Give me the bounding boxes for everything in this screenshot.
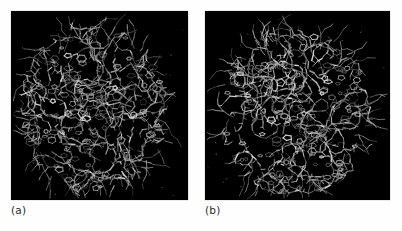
figure-root: (a) (b) <box>0 0 402 231</box>
panel-b-caption: (b) <box>205 204 390 217</box>
panel-b-image-frame <box>205 11 390 200</box>
figure-panel-a: (a) <box>11 11 188 217</box>
molecular-structure-b <box>205 11 390 200</box>
figure-panel-b: (b) <box>205 11 390 217</box>
molecular-structure-a <box>11 11 188 200</box>
panel-a-caption: (a) <box>11 204 188 217</box>
panel-a-image-frame <box>11 11 188 200</box>
